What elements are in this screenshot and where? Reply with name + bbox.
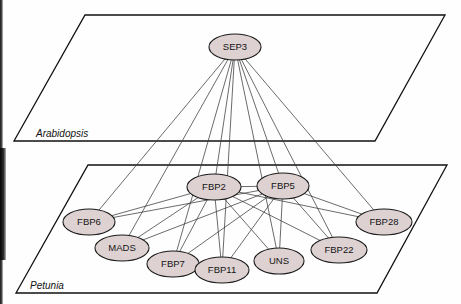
node-UNS[interactable]: UNS <box>254 248 304 274</box>
edge-FBP5-FBP22 <box>293 198 328 238</box>
edge-SEP3-FBP5 <box>239 60 278 173</box>
node-SEP3[interactable]: SEP3 <box>209 34 261 60</box>
edge-FBP2-FBP22 <box>233 196 320 240</box>
node-FBP22[interactable]: FBP22 <box>311 237 367 263</box>
node-FBP28[interactable]: FBP28 <box>356 209 412 235</box>
node-label-FBP7: FBP7 <box>161 258 185 269</box>
node-FBP11[interactable]: FBP11 <box>195 257 249 283</box>
edge-FBP5-FBP11 <box>231 198 274 258</box>
edges-layer <box>99 59 374 258</box>
edge-SEP3-FBP7 <box>177 60 232 251</box>
edge-FBP5-UNS <box>280 199 283 248</box>
edge-SEP3-FBP22 <box>241 60 332 238</box>
figure-canvas: SEP3FBP2FBP5FBP6FBP28MADSFBP22FBP7UNSFBP… <box>0 0 461 304</box>
plane-label-petunia: Petunia <box>30 280 64 291</box>
node-label-FBP2: FBP2 <box>202 181 226 192</box>
node-label-FBP11: FBP11 <box>208 264 236 275</box>
node-label-MADS: MADS <box>108 242 135 253</box>
edge-SEP3-UNS <box>238 60 277 248</box>
node-MADS[interactable]: MADS <box>95 235 149 261</box>
node-label-FBP6: FBP6 <box>77 216 101 227</box>
node-FBP6[interactable]: FBP6 <box>63 209 115 235</box>
node-FBP7[interactable]: FBP7 <box>147 251 199 277</box>
edge-FBP5-FBP28 <box>304 194 362 215</box>
node-label-UNS: UNS <box>269 255 289 266</box>
plane-label-arabidopsis: Arabidopsis <box>35 128 88 139</box>
node-FBP5[interactable]: FBP5 <box>257 173 309 199</box>
network-diagram-svg: SEP3FBP2FBP5FBP6FBP28MADSFBP22FBP7UNSFBP… <box>0 0 461 304</box>
node-label-FBP22: FBP22 <box>324 244 353 255</box>
node-label-SEP3: SEP3 <box>223 41 247 52</box>
nodes-layer: SEP3FBP2FBP5FBP6FBP28MADSFBP22FBP7UNSFBP… <box>63 34 412 283</box>
edge-FBP2-FBP11 <box>215 200 220 257</box>
node-FBP2[interactable]: FBP2 <box>187 174 241 200</box>
node-label-FBP28: FBP28 <box>369 216 398 227</box>
edge-FBP5-FBP7 <box>188 197 268 254</box>
edge-SEP3-MADS <box>129 60 228 236</box>
node-label-FBP5: FBP5 <box>271 180 295 191</box>
edge-FBP2-UNS <box>225 199 269 249</box>
